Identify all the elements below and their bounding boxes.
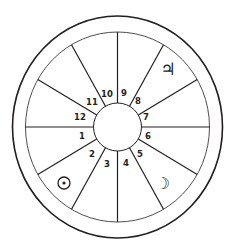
cusp-line <box>138 139 197 175</box>
house-label-5: 5 <box>137 149 143 159</box>
house-label-11: 11 <box>86 97 98 107</box>
house-label-6: 6 <box>145 131 151 141</box>
house-label-8: 8 <box>135 96 141 106</box>
sun-icon <box>58 177 70 189</box>
house-label-4: 4 <box>123 158 129 168</box>
house-label-1: 1 <box>79 131 85 141</box>
cusp-line <box>138 80 197 116</box>
house-wheel-chart: 1 2 3 4 5 6 7 8 9 10 11 12 ♃ ☽ <box>0 0 238 251</box>
cusp-line <box>38 139 97 175</box>
jupiter-icon: ♃ <box>160 59 175 79</box>
house-label-10: 10 <box>101 89 113 99</box>
house-label-2: 2 <box>89 149 95 159</box>
house-label-9: 9 <box>121 88 127 98</box>
house-label-12: 12 <box>74 112 86 122</box>
hub-circle <box>94 103 142 151</box>
moon-icon: ☽ <box>156 174 170 193</box>
house-label-3: 3 <box>104 159 110 169</box>
house-label-7: 7 <box>143 112 149 122</box>
